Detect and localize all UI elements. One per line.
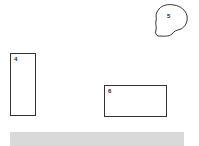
region-5-blob[interactable]: 5 — [150, 2, 190, 38]
region-label: 4 — [14, 56, 17, 62]
blob-outline-icon — [150, 2, 190, 38]
bottom-gray-bar — [10, 132, 184, 146]
region-label: 5 — [167, 13, 170, 19]
region-4-rect[interactable]: 4 — [10, 53, 36, 116]
region-label: 6 — [108, 88, 111, 94]
region-6-rect[interactable]: 6 — [104, 85, 167, 117]
